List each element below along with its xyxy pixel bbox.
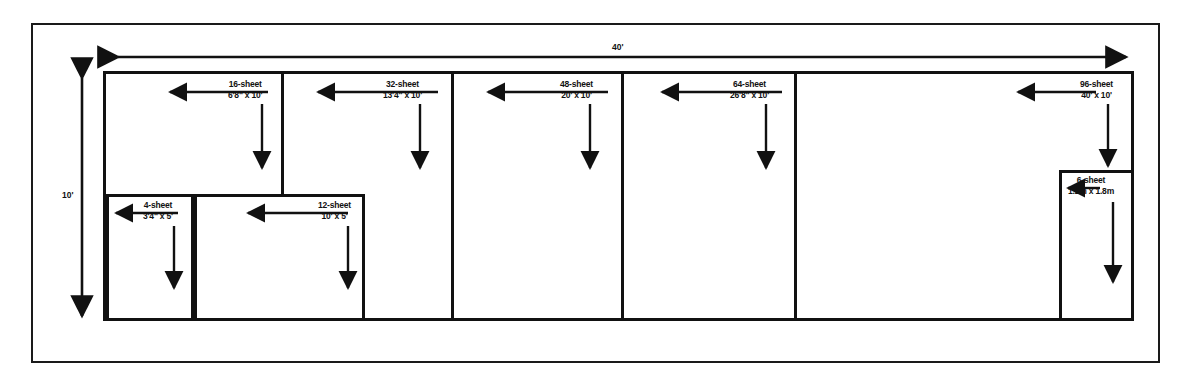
label-48-sheet-name: 48-sheet xyxy=(560,79,593,90)
label-16-sheet-name: 16-sheet xyxy=(228,79,262,90)
label-6-sheet-name: 6-sheet xyxy=(1068,175,1114,186)
divider-32-sheet xyxy=(451,71,454,321)
label-96-sheet: 96-sheet 40' x 10' xyxy=(1080,79,1113,101)
label-64-sheet: 64-sheet 26'8" x 10' xyxy=(730,79,769,101)
label-96-sheet-size: 40' x 10' xyxy=(1080,90,1113,101)
diagram-canvas: 40' 10' 16-sheet 6'8" x 10' 32-sheet 13'… xyxy=(0,0,1191,386)
label-16-sheet-size: 6'8" x 10' xyxy=(228,90,262,101)
label-12-sheet-name: 12-sheet xyxy=(318,200,351,211)
label-12-sheet: 12-sheet 10' x 5' xyxy=(318,200,351,222)
label-4-sheet-size: 3'4" x 5' xyxy=(143,211,173,222)
divider-64-sheet xyxy=(794,71,797,321)
label-16-sheet: 16-sheet 6'8" x 10' xyxy=(228,79,262,101)
label-32-sheet-size: 13'4" x 10' xyxy=(383,90,422,101)
label-12-sheet-size: 10' x 5' xyxy=(318,211,351,222)
label-96-sheet-name: 96-sheet xyxy=(1080,79,1113,90)
label-6-sheet-size: 1.2m x 1.8m xyxy=(1068,186,1114,197)
label-4-sheet-name: 4-sheet xyxy=(143,200,173,211)
divider-48-sheet xyxy=(621,71,624,321)
label-64-sheet-name: 64-sheet xyxy=(730,79,769,90)
label-4-sheet: 4-sheet 3'4" x 5' xyxy=(143,200,173,222)
label-48-sheet-size: 20' x 10' xyxy=(560,90,593,101)
overall-width-label: 40' xyxy=(612,42,623,52)
label-48-sheet: 48-sheet 20' x 10' xyxy=(560,79,593,101)
overall-height-label: 10' xyxy=(62,190,73,200)
label-6-sheet: 6-sheet 1.2m x 1.8m xyxy=(1068,175,1114,197)
label-32-sheet: 32-sheet 13'4" x 10' xyxy=(383,79,422,101)
label-32-sheet-name: 32-sheet xyxy=(383,79,422,90)
label-64-sheet-size: 26'8" x 10' xyxy=(730,90,769,101)
